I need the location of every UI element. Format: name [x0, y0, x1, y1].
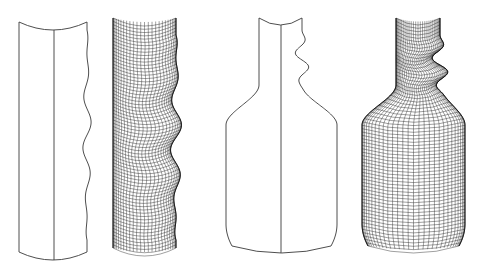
top-cap: [19, 22, 87, 30]
top-cap: [259, 18, 302, 25]
right-edge: [83, 22, 91, 252]
figure-canvas: [0, 0, 487, 261]
left-edge: [226, 18, 259, 246]
bottle-mesh: [362, 18, 465, 253]
right-edge: [432, 18, 465, 246]
bottom-cap: [232, 246, 331, 253]
wavy-cylinder-outline: [19, 22, 91, 260]
right-edge: [295, 18, 337, 246]
bottom-cap: [19, 252, 87, 260]
wavy-cylinder-mesh: [113, 18, 181, 256]
bottle-outline: [226, 18, 337, 253]
